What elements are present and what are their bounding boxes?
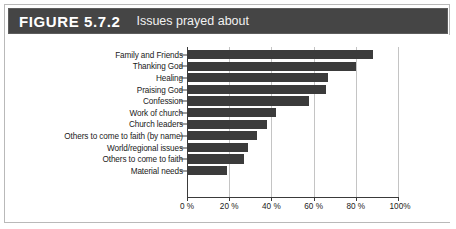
y-axis-tick-mark (180, 170, 187, 171)
x-axis-tick-label: 20 % (220, 202, 239, 211)
y-axis-tick-mark (180, 101, 187, 102)
chart-bar-row: Church leaders (5, 119, 451, 131)
chart-bar (187, 131, 257, 140)
figure-number-label: FIGURE 5.7.2 (19, 13, 120, 30)
x-axis-tick-mark (314, 197, 315, 201)
chart-bar (187, 154, 244, 163)
x-axis-tick-label: 100% (390, 202, 411, 211)
y-axis-tick-mark (180, 112, 187, 113)
chart-bar (187, 166, 227, 175)
bar-category-label: World/regional issues (107, 143, 183, 152)
figure-header-band: FIGURE 5.7.2 Issues prayed about (8, 8, 448, 34)
bar-category-label: Confession (143, 97, 183, 106)
bar-category-label: Material needs (131, 166, 183, 175)
chart-bar-row: Thanking God (5, 61, 451, 73)
x-axis-tick-labels: 0 %20 %40 %60 %80 %100% (5, 202, 451, 216)
x-axis-tick-label: 60 % (304, 202, 323, 211)
chart-bar (187, 143, 248, 152)
y-axis-tick-mark (180, 159, 187, 160)
chart-bar (187, 120, 267, 129)
bar-category-label: Healing (156, 73, 183, 82)
chart-plot-area: Family and FriendsThanking GodHealingPra… (5, 35, 451, 222)
horizontal-bar-chart: Family and FriendsThanking GodHealingPra… (5, 35, 451, 222)
bar-category-label: Work of church (129, 108, 183, 117)
chart-bar (187, 96, 309, 105)
chart-bar (187, 85, 326, 94)
chart-bar-row: Others to come to faith (by name) (5, 130, 451, 142)
chart-bar-row: Work of church (5, 107, 451, 119)
bar-category-label: Others to come to faith (102, 155, 183, 164)
chart-bar-row: Healing (5, 72, 451, 84)
chart-bar-row: Material needs (5, 165, 451, 177)
y-axis-tick-mark (180, 77, 187, 78)
chart-bar (187, 50, 373, 59)
x-axis-tick-marks (5, 197, 451, 201)
chart-bar-row: World/regional issues (5, 142, 451, 154)
x-axis-tick-mark (356, 197, 357, 201)
chart-bar-row: Family and Friends (5, 49, 451, 61)
y-axis-tick-mark (180, 66, 187, 67)
x-axis-tick-label: 0 % (180, 202, 194, 211)
bar-category-label: Thanking God (133, 62, 183, 71)
y-axis-tick-mark (180, 135, 187, 136)
bar-category-label: Praising God (137, 85, 183, 94)
chart-bar (187, 73, 328, 82)
y-axis-tick-mark (180, 54, 187, 55)
x-axis-tick-label: 80 % (346, 202, 365, 211)
bar-category-label: Family and Friends (115, 50, 183, 59)
chart-bar (187, 62, 356, 71)
y-axis-tick-mark (180, 124, 187, 125)
chart-bar-row: Others to come to faith (5, 153, 451, 165)
y-axis-tick-mark (180, 147, 187, 148)
chart-bar (187, 108, 276, 117)
bar-category-label: Others to come to faith (by name) (64, 131, 183, 140)
figure-title: Issues prayed about (136, 14, 249, 28)
x-axis-tick-label: 40 % (262, 202, 281, 211)
x-axis-tick-mark (187, 197, 188, 201)
y-axis-tick-mark (180, 89, 187, 90)
chart-bar-rows: Family and FriendsThanking GodHealingPra… (5, 49, 451, 177)
x-axis-tick-mark (271, 197, 272, 201)
chart-bar-row: Praising God (5, 84, 451, 96)
x-axis-tick-mark (229, 197, 230, 201)
chart-bar-row: Confession (5, 95, 451, 107)
x-axis-tick-mark (398, 197, 399, 201)
figure-card: FIGURE 5.7.2 Issues prayed about Family … (4, 4, 450, 223)
bar-category-label: Church leaders (129, 120, 183, 129)
